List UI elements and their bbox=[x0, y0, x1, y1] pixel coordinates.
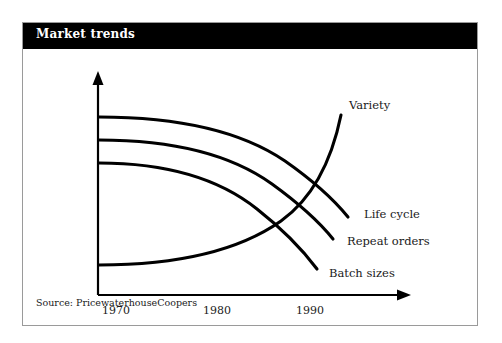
series-label-variety: Variety bbox=[348, 98, 391, 112]
series-label-repeat-orders: Repeat orders bbox=[347, 234, 430, 248]
series-line-life-cycle bbox=[99, 117, 348, 217]
series-label-batch-sizes: Batch sizes bbox=[329, 266, 395, 280]
chart-plot-area: 1970 1980 1990 Variety Life cycle Repeat… bbox=[23, 49, 477, 327]
figure-panel: Market trends 1970 1980 bbox=[22, 22, 478, 326]
x-axis-arrow-icon bbox=[397, 290, 411, 301]
trend-line-chart: 1970 1980 1990 Variety Life cycle Repeat… bbox=[23, 49, 477, 327]
x-tick-label-1980: 1980 bbox=[203, 304, 231, 317]
source-note: Source: PricewaterhouseCoopers bbox=[36, 297, 197, 308]
figure-title-bar: Market trends bbox=[23, 23, 477, 49]
series-line-variety bbox=[99, 115, 341, 265]
figure-title: Market trends bbox=[36, 27, 135, 41]
x-tick-label-1990: 1990 bbox=[296, 304, 324, 317]
series-line-repeat-orders bbox=[99, 140, 333, 239]
series-label-life-cycle: Life cycle bbox=[364, 207, 420, 221]
y-axis-arrow-icon bbox=[93, 71, 104, 85]
y-axis bbox=[93, 71, 104, 295]
